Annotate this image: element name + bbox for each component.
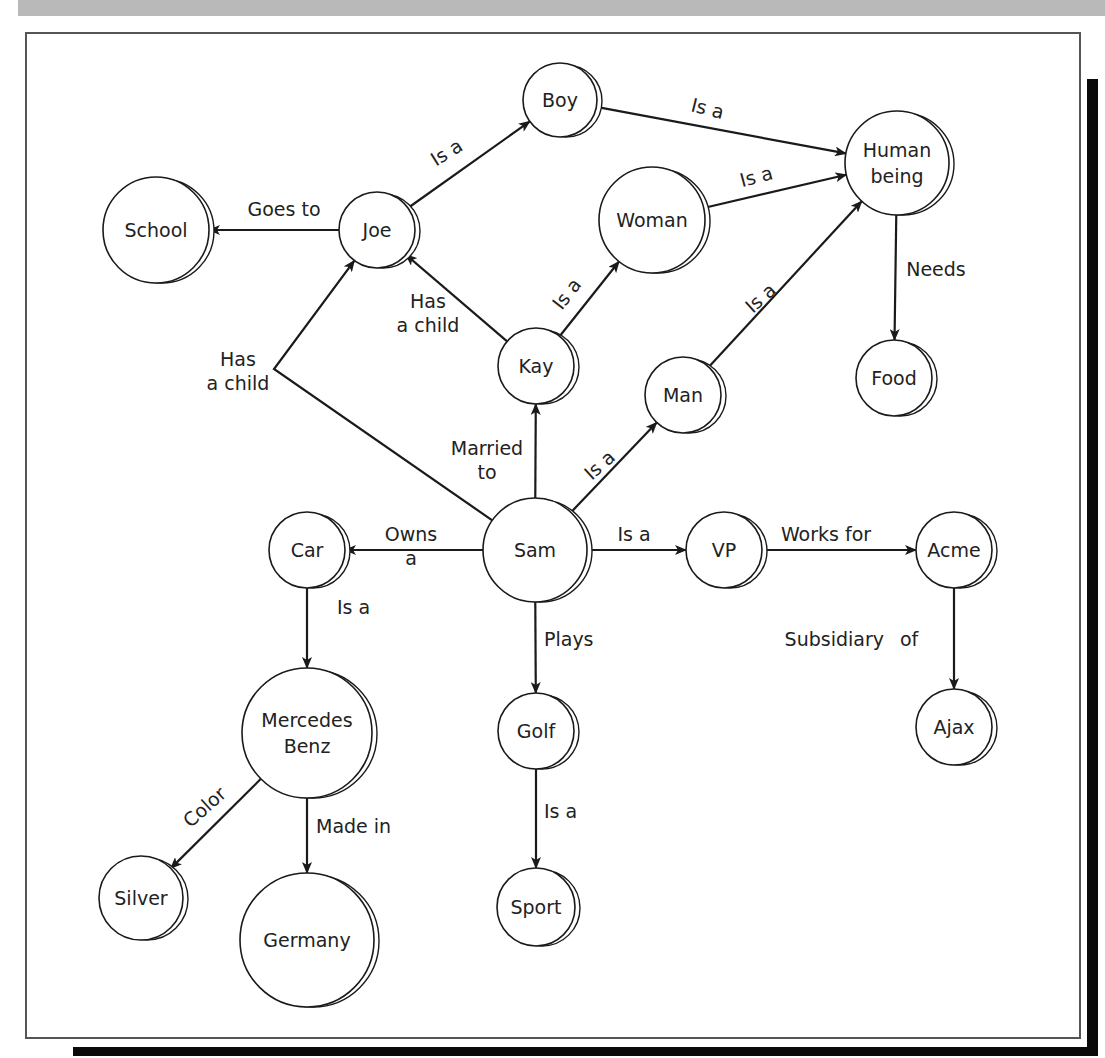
edge-label-text: Is a	[689, 94, 727, 123]
node-label: Woman	[616, 209, 688, 231]
edge-label-boy-human: Is a	[689, 94, 727, 123]
node-acme: Acme	[916, 512, 997, 588]
node-label: Boy	[542, 89, 578, 111]
edge-label-text: Goes to	[247, 198, 320, 220]
edge-label-text: Made in	[316, 815, 391, 837]
node-circle	[242, 668, 372, 798]
edge-sam-to-golf	[535, 602, 536, 693]
edge-label-sam-vp: Is a	[617, 523, 650, 545]
edge-label-text: of	[900, 628, 920, 650]
edge-label-sam-car: Ownsa	[385, 523, 437, 569]
node-germany: Germany	[240, 873, 379, 1007]
edge-human-to-food	[895, 215, 897, 340]
node-label: Human	[863, 139, 932, 161]
node-label: Ajax	[933, 716, 974, 738]
node-car: Car	[269, 512, 350, 588]
node-label: Mercedes	[261, 709, 352, 731]
edge-label-text: Is a	[544, 800, 577, 822]
node-label: Man	[663, 384, 703, 406]
node-label: Food	[871, 367, 917, 389]
edge-label-text: Owns	[385, 523, 437, 545]
node-sam: Sam	[483, 498, 592, 602]
node-label: being	[870, 165, 923, 187]
node-mercedes: MercedesBenz	[242, 668, 377, 798]
node-silver: Silver	[99, 856, 188, 940]
node-circle	[845, 111, 949, 215]
edge-label-text: a child	[207, 372, 270, 394]
node-sport: Sport	[497, 868, 580, 946]
node-kay: Kay	[498, 328, 579, 404]
edge-label-kay-woman: Is a	[548, 274, 586, 314]
edge-label-text: to	[477, 461, 496, 483]
edge-label-text: a child	[397, 314, 460, 336]
node-label: Acme	[927, 539, 980, 561]
node-ajax: Ajax	[916, 689, 997, 765]
edge-label-text: Is a	[426, 134, 466, 170]
node-label: Golf	[517, 720, 557, 742]
edge-label-text: a	[405, 547, 417, 569]
edge-label-text: Plays	[544, 628, 594, 650]
edge-label-sam-man: Is a	[580, 446, 619, 485]
edge-label-kay-joe: Hasa child	[397, 290, 460, 336]
edge-label-text: Has	[220, 348, 256, 370]
edge-label-joe-boy: Is a	[426, 134, 466, 170]
edge-label-text: Color	[179, 782, 231, 832]
node-label: Silver	[114, 887, 168, 909]
edge-label-acme-ajax: Subsidiaryof	[785, 628, 920, 650]
node-school: School	[103, 177, 214, 283]
node-label: Car	[291, 539, 324, 561]
edge-label-text: Is a	[337, 596, 370, 618]
node-label: Sam	[514, 539, 556, 561]
edge-joe-to-boy	[408, 121, 530, 208]
edge-label-sam-joe: Hasa child	[207, 348, 270, 394]
node-label: School	[124, 219, 187, 241]
edge-label-mercedes-silver: Color	[179, 782, 231, 832]
edge-label-text: Is a	[617, 523, 650, 545]
edge-label-car-mercedes: Is a	[337, 596, 370, 618]
node-boy: Boy	[523, 63, 602, 137]
edge-label-text: Married	[451, 437, 523, 459]
node-label: Kay	[518, 355, 553, 377]
node-human: Humanbeing	[845, 111, 954, 215]
node-golf: Golf	[498, 693, 579, 769]
edge-label-human-food: Needs	[906, 258, 966, 280]
edge-label-text: Is a	[580, 446, 619, 485]
edge-label-sam-kay: Marriedto	[451, 437, 523, 483]
edge-label-text: Is a	[737, 161, 775, 191]
edge-label-mercedes-germany: Made in	[316, 815, 391, 837]
node-joe: Joe	[339, 192, 420, 268]
edge-label-text: Is a	[741, 279, 780, 318]
edge-woman-to-human	[704, 175, 847, 208]
edge-label-golf-sport: Is a	[544, 800, 577, 822]
edge-label-woman-human: Is a	[737, 161, 775, 191]
edge-label-text: Works for	[781, 523, 871, 545]
node-man: Man	[645, 357, 726, 433]
edge-label-vp-acme: Works for	[781, 523, 871, 545]
node-vp: VP	[686, 512, 767, 588]
edge-label-man-human: Is a	[741, 279, 780, 318]
semantic-network-diagram: SchoolJoeBoyWomanHumanbeingKayManFoodCar…	[0, 0, 1105, 1058]
edge-label-joe-school: Goes to	[247, 198, 320, 220]
node-woman: Woman	[599, 167, 710, 273]
edge-label-sam-golf: Plays	[544, 628, 594, 650]
node-food: Food	[856, 340, 937, 416]
edge-sam-to-kay	[535, 404, 536, 498]
node-label: Sport	[510, 896, 561, 918]
node-label: Benz	[284, 735, 331, 757]
node-label: VP	[712, 539, 736, 561]
edge-label-text: Needs	[906, 258, 966, 280]
edge-label-text: Is a	[548, 274, 586, 314]
edge-man-to-human	[709, 201, 862, 367]
edge-label-text: Has	[410, 290, 446, 312]
node-label: Germany	[263, 929, 350, 951]
edge-label-text: Subsidiary	[785, 628, 884, 650]
node-label: Joe	[362, 219, 392, 241]
